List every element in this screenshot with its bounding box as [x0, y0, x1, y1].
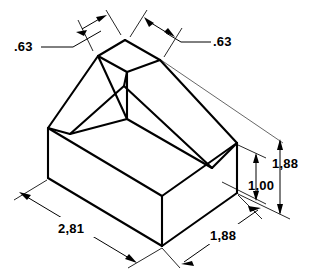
dimension-chamfer-right-group: .63: [130, 10, 232, 57]
dim-label-overall-height: 1,88: [272, 156, 298, 171]
chamfer-left-leader-line: [41, 31, 101, 47]
base-length-arrow-end: [125, 254, 137, 263]
dimension-chamfer-left-group: .63: [14, 10, 121, 54]
solid-faces-group: [48, 40, 237, 246]
chamfer-right-arrow-start: [144, 17, 154, 27]
base-length-ext-line-a: [14, 180, 47, 200]
overall-height-arrow-top: [277, 139, 283, 150]
dim-label-base-length: 2,81: [58, 221, 84, 236]
chamfer-left-ext-line-b: [106, 10, 121, 35]
technical-drawing-canvas: .63 .63 1,88: [0, 0, 318, 275]
dim-label-chamfer-right: .63: [213, 34, 232, 49]
chamfer-left-ext-line-a: [78, 20, 93, 51]
dim-label-chamfer-left: .63: [14, 39, 33, 54]
dim-label-base-height: 1,00: [248, 178, 274, 193]
isometric-drawing-svg: .63 .63 1,88: [0, 0, 318, 275]
chamfer-left-arrow-end: [96, 15, 107, 22]
base-height-upper-ext-line: [238, 145, 266, 158]
base-width-ext-line-a: [162, 248, 180, 268]
base-length-ext-line-b: [128, 248, 162, 268]
chamfer-right-ext-line-a: [130, 10, 147, 37]
base-width-arrow-start: [181, 261, 194, 266]
dim-label-base-width: 1,88: [210, 228, 236, 243]
